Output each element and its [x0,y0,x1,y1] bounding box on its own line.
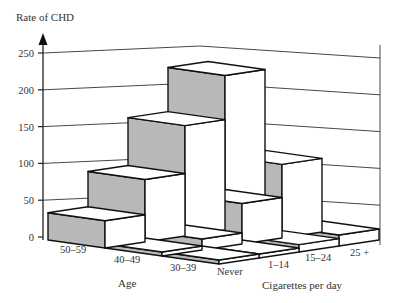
cig-label-1-14: 1–14 [268,259,290,270]
age-axis-title: Age [118,277,136,289]
bar-side-face [185,120,225,236]
gridline [43,46,380,58]
y-tick-label: 100 [18,158,34,169]
bar-side-face [282,158,322,238]
y-ticks: 050100150200250 [18,48,43,243]
cig-label-never: Never [217,266,243,277]
age-label-30-39: 30–39 [170,262,196,273]
y-tick-label: 50 [24,195,35,206]
age-label-50-59: 50–59 [60,244,86,255]
chd-3d-bar-chart: Rate of CHD 050100150200250 50–59 40–49 … [0,0,401,303]
y-tick-label: 250 [18,48,34,59]
y-axis-label: Rate of CHD [16,11,74,23]
bar-side-face [145,173,185,242]
y-tick-label: 150 [18,122,34,133]
bar-50–59-Never [48,207,145,248]
age-label-40-49: 40–49 [114,254,140,265]
bar-side-face [242,198,282,244]
cig-label-25-plus: 25 + [350,247,369,258]
cig-axis-title: Cigarettes per day [262,279,343,291]
y-tick-label: 0 [29,232,34,243]
y-axis-arrow-icon [39,33,48,45]
cig-label-15-24: 15–24 [305,252,332,263]
y-tick-label: 200 [18,85,34,96]
